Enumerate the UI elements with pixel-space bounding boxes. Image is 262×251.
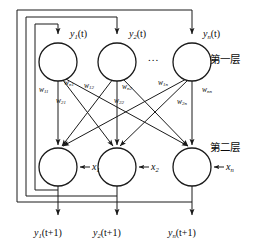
weight-label-w22: w22 bbox=[114, 97, 124, 106]
label-output-y2: y2(t+1) bbox=[93, 228, 121, 239]
weight-label-w21: w21 bbox=[56, 97, 66, 106]
layer-label-first: 第一层 bbox=[210, 54, 240, 65]
node-sn bbox=[173, 148, 211, 186]
label-output-y1: y1(t+1) bbox=[34, 228, 62, 239]
node-yn bbox=[173, 43, 211, 81]
label-input-y2: y2(t) bbox=[129, 29, 146, 40]
weight-label-w11: w11 bbox=[39, 86, 49, 95]
label-external-input-x2: x2 bbox=[151, 162, 159, 173]
ellipsis-top-layer: ... bbox=[148, 52, 159, 63]
weight-label-wn2: wn2 bbox=[122, 83, 132, 92]
weight-label-w12: w12 bbox=[84, 82, 94, 91]
node-y1 bbox=[39, 43, 77, 81]
weight-label-w1n: w1n bbox=[158, 79, 168, 88]
weight-label-wnn: wnn bbox=[202, 86, 212, 95]
layer-label-second: 第二层 bbox=[210, 142, 240, 153]
label-output-yn: yn(t+1) bbox=[168, 228, 196, 239]
label-input-yn: yn(t) bbox=[203, 29, 220, 40]
network-diagram: y1(t) y2(t) yn(t) ... 第一层 第二层 w11 wn1 w2… bbox=[0, 0, 262, 251]
node-y2 bbox=[98, 43, 136, 81]
weight-label-wn1: wn1 bbox=[64, 79, 74, 88]
label-external-input-xn: xn bbox=[226, 162, 234, 173]
label-external-input-x1: x1 bbox=[92, 162, 100, 173]
weight-label-w2n: w2n bbox=[177, 98, 187, 107]
node-s2 bbox=[98, 148, 136, 186]
label-input-y1: y1(t) bbox=[70, 29, 87, 40]
node-s1 bbox=[39, 148, 77, 186]
